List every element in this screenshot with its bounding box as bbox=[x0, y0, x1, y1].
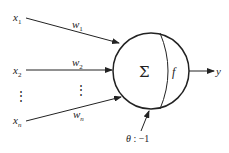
input-label-2: x2 bbox=[12, 64, 22, 79]
input-label-1: x1 bbox=[12, 11, 22, 26]
weight-label-n: wn bbox=[73, 108, 84, 123]
neuron-circle bbox=[113, 33, 189, 109]
threshold-label: θ : −1 bbox=[126, 133, 149, 144]
neuron-diagram: x1 x2 xn w1 w2 wn ⋮ ⋮ Σ f y θ : −1 bbox=[0, 0, 229, 153]
weight-ellipsis: ⋮ bbox=[75, 83, 87, 97]
summation-symbol: Σ bbox=[139, 63, 150, 81]
activation-symbol: f bbox=[172, 65, 177, 79]
input-label-n: xn bbox=[12, 114, 22, 129]
output-label: y bbox=[215, 65, 221, 77]
input-ellipsis: ⋮ bbox=[15, 89, 27, 103]
weight-label-2: w2 bbox=[72, 56, 83, 71]
divider-curve bbox=[160, 33, 168, 109]
threshold-arrow bbox=[141, 111, 149, 131]
